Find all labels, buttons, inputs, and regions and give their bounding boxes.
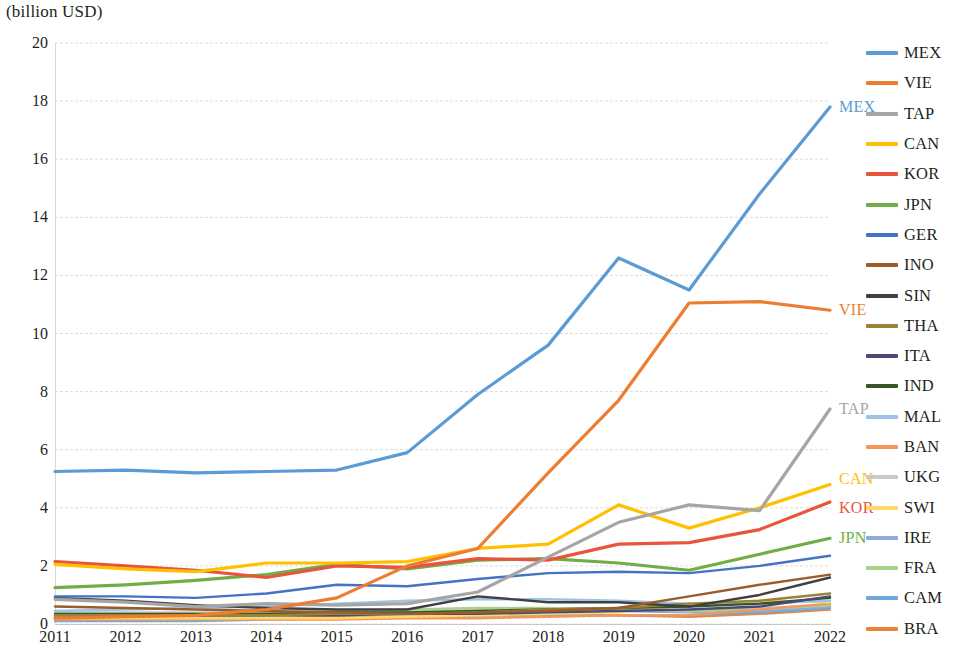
legend-label: MEX bbox=[904, 43, 941, 63]
legend-label: INO bbox=[904, 255, 934, 275]
legend-swatch-icon-INO bbox=[866, 263, 898, 267]
x-axis-tick-2011: 2011 bbox=[39, 628, 70, 646]
legend-label: SIN bbox=[904, 286, 931, 306]
legend-swatch-icon-MEX bbox=[866, 51, 898, 55]
legend: MEXVIETAPCANKORJPNGERINOSINTHAITAINDMALB… bbox=[866, 38, 957, 644]
x-axis-tick-2022: 2022 bbox=[814, 628, 846, 646]
x-axis-tick-2012: 2012 bbox=[109, 628, 141, 646]
legend-label: THA bbox=[904, 316, 939, 336]
y-axis-tick-20: 20 bbox=[8, 34, 48, 52]
legend-label: UKG bbox=[904, 467, 940, 487]
chart-axis-title: (billion USD) bbox=[6, 2, 103, 22]
legend-item-UKG[interactable]: UKG bbox=[866, 462, 957, 492]
end-label-TAP: TAP bbox=[839, 400, 869, 418]
legend-label: BRA bbox=[904, 619, 939, 639]
legend-label: GER bbox=[904, 225, 938, 245]
legend-item-BAN[interactable]: BAN bbox=[866, 432, 957, 462]
end-label-JPN: JPN bbox=[839, 529, 867, 547]
legend-swatch-icon-KOR bbox=[866, 172, 898, 176]
x-axis-line bbox=[55, 624, 831, 625]
y-axis-tick-2: 2 bbox=[8, 557, 48, 575]
x-axis-tick-2013: 2013 bbox=[180, 628, 212, 646]
legend-swatch-icon-SWI bbox=[866, 506, 898, 510]
legend-label: CAN bbox=[904, 134, 939, 154]
y-axis-tick-6: 6 bbox=[8, 441, 48, 459]
legend-label: FRA bbox=[904, 558, 937, 578]
y-axis-tick-14: 14 bbox=[8, 208, 48, 226]
legend-swatch-icon-GER bbox=[866, 233, 898, 237]
x-axis-tick-2016: 2016 bbox=[391, 628, 423, 646]
legend-label: MAL bbox=[904, 407, 941, 427]
legend-label: VIE bbox=[904, 73, 932, 93]
legend-swatch-icon-CAN bbox=[866, 142, 898, 146]
legend-label: TAP bbox=[904, 104, 934, 124]
y-axis-tick-10: 10 bbox=[8, 325, 48, 343]
legend-swatch-icon-THA bbox=[866, 324, 898, 328]
legend-label: ITA bbox=[904, 346, 931, 366]
series-line-TAP bbox=[55, 409, 830, 607]
legend-label: IND bbox=[904, 376, 934, 396]
series-lines bbox=[55, 43, 830, 624]
legend-item-THA[interactable]: THA bbox=[866, 311, 957, 341]
legend-swatch-icon-VIE bbox=[866, 81, 898, 85]
end-label-VIE: VIE bbox=[839, 301, 867, 319]
legend-item-SIN[interactable]: SIN bbox=[866, 280, 957, 310]
legend-swatch-icon-SIN bbox=[866, 294, 898, 298]
legend-swatch-icon-BRA bbox=[866, 627, 898, 631]
legend-swatch-icon-IRE bbox=[866, 536, 898, 540]
y-axis: 02468101214161820 bbox=[0, 43, 48, 624]
legend-item-FRA[interactable]: FRA bbox=[866, 553, 957, 583]
legend-swatch-icon-IND bbox=[866, 384, 898, 388]
plot-area bbox=[55, 43, 830, 624]
legend-item-JPN[interactable]: JPN bbox=[866, 189, 957, 219]
series-line-MEX bbox=[55, 107, 830, 473]
y-axis-tick-8: 8 bbox=[8, 383, 48, 401]
legend-item-VIE[interactable]: VIE bbox=[866, 68, 957, 98]
legend-label: BAN bbox=[904, 437, 939, 457]
legend-swatch-icon-TAP bbox=[866, 112, 898, 116]
legend-swatch-icon-ITA bbox=[866, 354, 898, 358]
legend-label: CAM bbox=[904, 588, 942, 608]
x-axis-tick-2019: 2019 bbox=[603, 628, 635, 646]
y-axis-tick-4: 4 bbox=[8, 499, 48, 517]
legend-item-IRE[interactable]: IRE bbox=[866, 523, 957, 553]
legend-swatch-icon-MAL bbox=[866, 415, 898, 419]
legend-item-INO[interactable]: INO bbox=[866, 250, 957, 280]
legend-swatch-icon-JPN bbox=[866, 203, 898, 207]
x-axis-tick-2020: 2020 bbox=[673, 628, 705, 646]
x-axis-tick-2018: 2018 bbox=[532, 628, 564, 646]
x-axis-tick-2021: 2021 bbox=[744, 628, 776, 646]
legend-label: KOR bbox=[904, 164, 939, 184]
legend-item-MEX[interactable]: MEX bbox=[866, 38, 957, 68]
legend-item-GER[interactable]: GER bbox=[866, 220, 957, 250]
legend-item-ITA[interactable]: ITA bbox=[866, 341, 957, 371]
legend-item-TAP[interactable]: TAP bbox=[866, 99, 957, 129]
legend-label: SWI bbox=[904, 498, 935, 518]
x-axis-tick-2015: 2015 bbox=[321, 628, 353, 646]
x-axis: 2011201220132014201520162017201820192020… bbox=[55, 628, 830, 658]
legend-swatch-icon-CAM bbox=[866, 596, 898, 600]
legend-label: IRE bbox=[904, 528, 931, 548]
y-axis-tick-12: 12 bbox=[8, 266, 48, 284]
legend-item-SWI[interactable]: SWI bbox=[866, 492, 957, 522]
line-chart: (billion USD) 02468101214161820 20112012… bbox=[0, 0, 957, 663]
legend-swatch-icon-BAN bbox=[866, 445, 898, 449]
legend-swatch-icon-FRA bbox=[866, 566, 898, 570]
legend-item-IND[interactable]: IND bbox=[866, 371, 957, 401]
legend-label: JPN bbox=[904, 195, 932, 215]
legend-item-CAM[interactable]: CAM bbox=[866, 583, 957, 613]
legend-item-KOR[interactable]: KOR bbox=[866, 159, 957, 189]
legend-swatch-icon-UKG bbox=[866, 475, 898, 479]
y-axis-tick-16: 16 bbox=[8, 150, 48, 168]
x-axis-tick-2017: 2017 bbox=[462, 628, 494, 646]
legend-item-CAN[interactable]: CAN bbox=[866, 129, 957, 159]
legend-item-BRA[interactable]: BRA bbox=[866, 614, 957, 644]
legend-item-MAL[interactable]: MAL bbox=[866, 402, 957, 432]
x-axis-tick-2014: 2014 bbox=[250, 628, 282, 646]
y-axis-tick-18: 18 bbox=[8, 92, 48, 110]
